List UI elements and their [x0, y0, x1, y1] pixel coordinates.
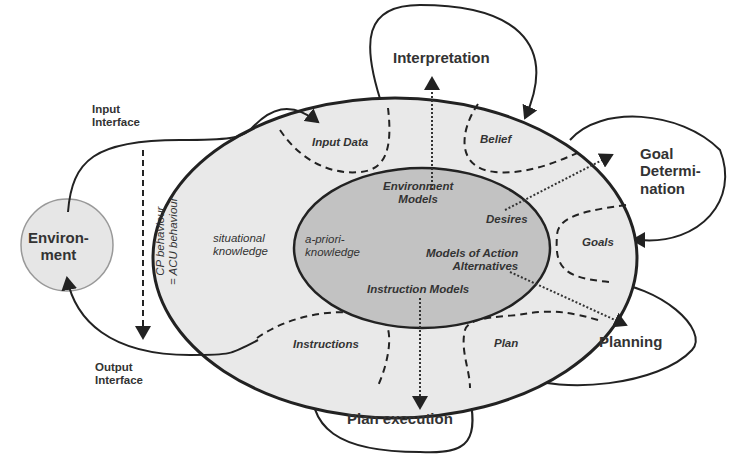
env-models-line1: Environment [383, 180, 453, 193]
behaviour-line2: = ACU behaviour [167, 186, 180, 296]
plan-label: Plan [494, 337, 518, 350]
situational-line1: situational [213, 232, 268, 245]
action-models-label: Models of Action Alternatives [426, 247, 518, 273]
instruction-models-label: Instruction Models [367, 283, 469, 296]
apriori-line2: knowledge [305, 246, 360, 259]
instructions-label: Instructions [293, 338, 359, 351]
action-models-line2: Alternatives [426, 260, 518, 273]
cognitive-process-diagram: Environ- ment Input Interface Output Int… [0, 0, 744, 472]
input-interface-line2: Interface [92, 116, 140, 129]
behaviour-label: CP behaviour = ACU behaviour [154, 186, 180, 296]
output-interface-label: Output Interface [95, 361, 143, 387]
environment-line1: Environ- [28, 229, 89, 246]
input-interface-label: Input Interface [92, 103, 140, 129]
input-interface-line1: Input [92, 103, 140, 116]
behaviour-line1: CP behaviour [154, 186, 167, 296]
a-priori-knowledge-label: a-priori- knowledge [305, 233, 360, 259]
apriori-line1: a-priori- [305, 233, 360, 246]
belief-label: Belief [480, 133, 511, 146]
goal-det-line2: Determi- [640, 162, 701, 179]
goals-label: Goals [582, 236, 614, 249]
action-models-line1: Models of Action [426, 247, 518, 260]
planning-label: Planning [599, 333, 662, 350]
environment-models-label: Environment Models [383, 180, 453, 206]
goal-det-line3: nation [640, 180, 701, 197]
output-interface-line2: Interface [95, 374, 143, 387]
plan-execution-label: Plan execution [347, 410, 453, 427]
env-models-line2: Models [383, 193, 453, 206]
environment-line2: ment [28, 246, 89, 263]
environment-label: Environ- ment [28, 229, 89, 264]
input-data-label: Input Data [312, 136, 368, 149]
situational-line2: knowledge [213, 245, 268, 258]
diagram-shapes [0, 0, 744, 472]
goal-det-line1: Goal [640, 145, 701, 162]
output-interface-line1: Output [95, 361, 143, 374]
situational-knowledge-label: situational knowledge [213, 232, 268, 258]
desires-label: Desires [486, 213, 528, 226]
interpretation-label: Interpretation [393, 49, 490, 66]
goal-determination-label: Goal Determi- nation [640, 145, 701, 197]
